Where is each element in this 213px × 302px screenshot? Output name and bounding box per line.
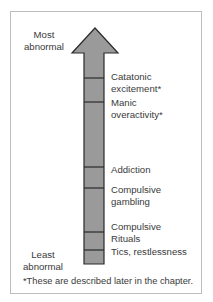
level-line: Manic [111,97,163,109]
footnote: *These are described later in the chapte… [23,276,193,286]
most-abnormal-label: Most abnormal [24,29,64,52]
least-abnormal-line-1: Least [22,249,64,261]
level-line: overactivity* [111,109,163,121]
level-line: gambling [111,196,161,208]
most-abnormal-line-2: abnormal [24,41,64,53]
level-catatonic-excitement: Catatonic excitement* [111,71,161,94]
level-manic-overactivity: Manic overactivity* [111,97,163,120]
level-addiction: Addiction [111,164,150,176]
level-line: Rituals [111,233,161,245]
level-compulsive-gambling: Compulsive gambling [111,184,161,207]
level-compulsive-rituals: Compulsive Rituals [111,221,161,244]
level-tics-restlessness: Tics, restlessness [111,246,187,258]
level-line: excitement* [111,83,161,95]
most-abnormal-line-1: Most [24,29,64,41]
level-line: Tics, restlessness [111,246,187,258]
least-abnormal-line-2: abnormal [22,261,64,273]
level-line: Catatonic [111,71,161,83]
level-line: Compulsive [111,221,161,233]
least-abnormal-label: Least abnormal [22,249,64,272]
level-line: Addiction [111,164,150,176]
level-line: Compulsive [111,184,161,196]
